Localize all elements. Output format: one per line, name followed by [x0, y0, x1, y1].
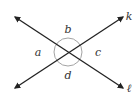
angle-label-b: b — [64, 23, 71, 36]
line-label-l: ℓ — [127, 82, 132, 95]
angle-label-c: c — [95, 46, 101, 59]
intersecting-lines-diagram: a b c d k ℓ — [0, 0, 140, 95]
angle-label-d: d — [64, 69, 71, 82]
line-label-k: k — [126, 10, 133, 23]
angle-label-a: a — [35, 46, 42, 59]
